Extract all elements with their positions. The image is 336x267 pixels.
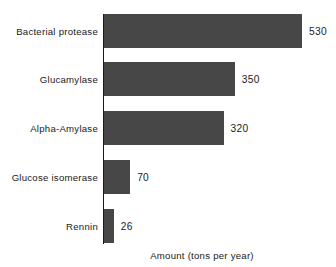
bar-row: Alpha-Amylase 320 [0, 111, 336, 145]
bar-row: Bacterial protease 530 [0, 14, 336, 48]
bar[interactable] [104, 209, 114, 243]
category-label: Alpha-Amylase [30, 123, 98, 134]
bar-chart: Bacterial protease 530 Glucamylase 350 A… [0, 0, 336, 267]
bar[interactable] [104, 111, 224, 145]
bar[interactable] [104, 14, 302, 48]
category-label: Glucose isomerase [12, 172, 98, 183]
x-axis-caption-text: Amount (tons per year) [150, 250, 254, 261]
bar[interactable] [104, 160, 130, 194]
bar-value-label: 26 [121, 221, 133, 232]
plot-area: Bacterial protease 530 Glucamylase 350 A… [0, 0, 336, 246]
bar-value-label: 530 [309, 26, 327, 37]
category-label: Glucamylase [40, 74, 98, 85]
bar[interactable] [104, 62, 235, 96]
bar-row: Glucamylase 350 [0, 62, 336, 96]
bar-row: Glucose isomerase 70 [0, 160, 336, 194]
bar-value-label: 350 [242, 74, 260, 85]
bar-value-label: 70 [137, 172, 149, 183]
bar-value-label: 320 [231, 123, 249, 134]
category-label: Bacterial protease [16, 26, 98, 37]
bar-row: Rennin 26 [0, 209, 336, 243]
x-axis-caption: Amount (tons per year) [0, 250, 336, 261]
category-label: Rennin [66, 221, 98, 232]
